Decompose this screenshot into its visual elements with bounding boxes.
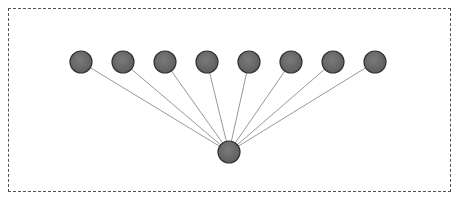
edge-c3 xyxy=(165,62,229,152)
edge-c8 xyxy=(229,62,375,152)
edge-c1 xyxy=(81,62,229,152)
child-node-c4 xyxy=(196,51,218,73)
edges xyxy=(81,62,375,152)
edge-c7 xyxy=(229,62,333,152)
tree-diagram xyxy=(0,0,458,199)
child-node-c7 xyxy=(322,51,344,73)
child-node-c2 xyxy=(112,51,134,73)
child-node-c5 xyxy=(238,51,260,73)
edge-c2 xyxy=(123,62,229,152)
nodes xyxy=(70,51,386,163)
child-node-c3 xyxy=(154,51,176,73)
edge-c5 xyxy=(229,62,249,152)
child-node-c1 xyxy=(70,51,92,73)
child-node-c8 xyxy=(364,51,386,73)
child-node-c6 xyxy=(280,51,302,73)
root-node xyxy=(218,141,240,163)
edge-c4 xyxy=(207,62,229,152)
